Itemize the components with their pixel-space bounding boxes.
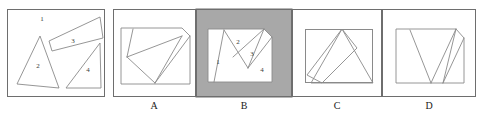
option-a-content[interactable] — [121, 28, 190, 84]
option-d-content[interactable] — [396, 29, 464, 83]
option-b-region-label-3: 3 — [250, 50, 254, 58]
prompt-piece-3-quadrilateral — [49, 17, 103, 51]
option-label-c: C — [334, 100, 341, 111]
prompt-piece-label-1: 1 — [40, 15, 44, 23]
prompt-piece-label-4: 4 — [86, 66, 90, 74]
option-label-a: A — [150, 100, 158, 111]
prompt-piece-label-2: 2 — [36, 62, 40, 70]
figure-canvas: 1 2 3 4 1 2 3 4 — [0, 0, 482, 115]
option-b-region-label-4: 4 — [260, 66, 264, 74]
option-label-b: B — [241, 100, 248, 111]
geometry-puzzle-figure: 1 2 3 4 1 2 3 4 — [0, 0, 482, 115]
option-c-content[interactable] — [306, 29, 374, 83]
prompt-panel-content: 1 2 3 4 — [17, 15, 103, 88]
option-label-d: D — [425, 100, 432, 111]
option-b-region-label-2: 2 — [236, 38, 240, 46]
option-b-region-label-1: 1 — [216, 58, 220, 66]
prompt-piece-label-3: 3 — [71, 37, 75, 45]
option-b-content[interactable]: 1 2 3 4 — [208, 29, 272, 82]
prompt-piece-4-triangle — [66, 43, 101, 88]
option-letter-labels: A B C D — [150, 100, 432, 111]
